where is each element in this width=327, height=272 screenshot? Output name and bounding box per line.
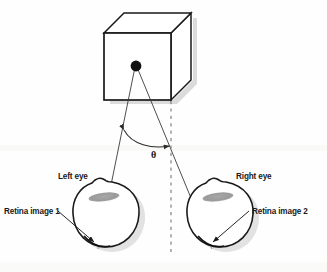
stereopsis-diagram: Left eye Right eye Retina image 1 Retina… xyxy=(0,0,327,272)
label-left-eye: Left eye xyxy=(58,172,88,181)
label-retina-image-2: Retina image 2 xyxy=(252,207,308,216)
fixation-point-dot xyxy=(131,61,142,72)
label-convergence-angle: θ xyxy=(151,149,156,160)
label-retina-image-1: Retina image 1 xyxy=(4,207,60,216)
figure-canvas: Left eye Right eye Retina image 1 Retina… xyxy=(0,0,327,272)
cube xyxy=(104,13,197,104)
scan-artifact-band xyxy=(0,145,327,151)
label-right-eye: Right eye xyxy=(236,172,272,181)
scan-artifact-bottom xyxy=(0,262,327,272)
